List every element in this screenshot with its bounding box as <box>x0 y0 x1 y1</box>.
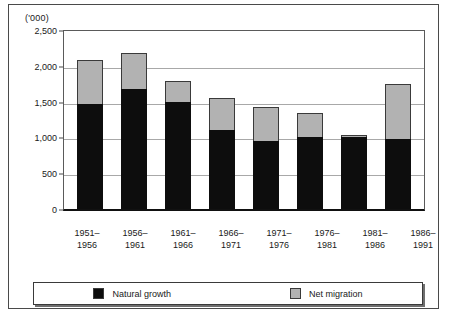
x-axis-tick-label-line: 1986– <box>402 227 444 239</box>
bar-stack[interactable] <box>165 81 191 209</box>
bar-segment-natural-growth[interactable] <box>385 139 411 209</box>
x-axis-tick-label: 1956–1961 <box>114 227 156 261</box>
bar-segment-net-migration[interactable] <box>385 84 411 139</box>
plot-area <box>63 30 425 211</box>
x-axis-tick-label-line: 1956– <box>114 227 156 239</box>
x-axis-tick-label: 1971–1976 <box>258 227 300 261</box>
x-axis-tick-label: 1951–1956 <box>66 227 108 261</box>
legend-swatch-black <box>93 288 104 299</box>
bar-stack[interactable] <box>121 53 147 209</box>
y-axis-units-label: ('000) <box>25 13 49 23</box>
bar-segment-net-migration[interactable] <box>121 53 147 89</box>
bar-segment-natural-growth[interactable] <box>77 104 103 209</box>
bar-stack[interactable] <box>209 98 235 209</box>
y-axis-tick-label: 0 <box>52 205 57 215</box>
x-axis-tick-label-line: 1966 <box>162 239 204 251</box>
x-axis-tick-label: 1966–1971 <box>210 227 252 261</box>
legend-item[interactable]: Natural growth <box>93 288 171 299</box>
x-axis-tick-label-line: 1961 <box>114 239 156 251</box>
x-axis-tick-label-line: 1981– <box>354 227 396 239</box>
chart-figure: ('000) 2,5002,0001,5001,0005000 1951–195… <box>8 4 439 309</box>
bar-segment-natural-growth[interactable] <box>341 137 367 209</box>
y-axis: 2,5002,0001,5001,0005000 <box>25 30 63 225</box>
legend-label: Natural growth <box>112 289 171 299</box>
x-axis-tick-label-line: 1956 <box>66 239 108 251</box>
bar-group <box>64 31 424 209</box>
x-axis-tick-label-line: 1961– <box>162 227 204 239</box>
legend-label: Net migration <box>309 289 363 299</box>
x-axis-tick-label-line: 1986 <box>354 239 396 251</box>
x-axis-tick-label-line: 1991 <box>402 239 444 251</box>
chart-legend: Natural growthNet migration <box>33 282 423 305</box>
bar-stack[interactable] <box>341 135 367 209</box>
x-axis-tick-label-line: 1971– <box>258 227 300 239</box>
x-axis-tick-label-line: 1966– <box>210 227 252 239</box>
y-axis-tick-label: 1,000 <box>34 133 57 143</box>
y-axis-tick-label: 2,500 <box>34 26 57 36</box>
y-axis-tick-label: 2,000 <box>34 62 57 72</box>
x-axis-tick-label: 1986–1991 <box>402 227 444 261</box>
x-axis-tick-label-line: 1976– <box>306 227 348 239</box>
bar-stack[interactable] <box>77 60 103 209</box>
x-axis: 1951–19561956–19611961–19661966–19711971… <box>63 227 447 261</box>
bar-segment-natural-growth[interactable] <box>165 102 191 209</box>
bar-stack[interactable] <box>297 113 323 209</box>
x-axis-tick-label-line: 1981 <box>306 239 348 251</box>
x-axis-tick-label-line: 1976 <box>258 239 300 251</box>
bar-stack[interactable] <box>385 84 411 209</box>
bar-segment-natural-growth[interactable] <box>209 130 235 209</box>
bar-segment-natural-growth[interactable] <box>253 141 279 209</box>
y-axis-tick-label: 500 <box>42 169 57 179</box>
bar-segment-natural-growth[interactable] <box>297 137 323 209</box>
bar-segment-net-migration[interactable] <box>77 60 103 104</box>
bar-stack[interactable] <box>253 107 279 209</box>
x-axis-tick-label: 1976–1981 <box>306 227 348 261</box>
bar-segment-net-migration[interactable] <box>165 81 191 102</box>
x-axis-tick-label: 1981–1986 <box>354 227 396 261</box>
legend-item[interactable]: Net migration <box>290 288 363 299</box>
x-axis-tick-label-line: 1951– <box>66 227 108 239</box>
y-axis-tick-label: 1,500 <box>34 98 57 108</box>
legend-swatch-gray <box>290 288 301 299</box>
bar-segment-net-migration[interactable] <box>297 113 323 137</box>
x-axis-tick-label-line: 1971 <box>210 239 252 251</box>
bar-segment-net-migration[interactable] <box>209 98 235 130</box>
x-axis-tick-label: 1961–1966 <box>162 227 204 261</box>
bar-segment-natural-growth[interactable] <box>121 89 147 209</box>
bar-segment-net-migration[interactable] <box>253 107 279 141</box>
plot-wrapper: 2,5002,0001,5001,0005000 <box>25 30 425 225</box>
